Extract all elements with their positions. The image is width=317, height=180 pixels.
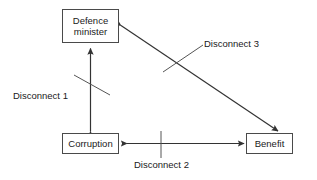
node-benefit[interactable]: Benefit: [246, 133, 293, 154]
edge-disconnect-1: [74, 49, 110, 132]
edge-disconnect-2: [127, 131, 244, 158]
node-corruption[interactable]: Corruption: [62, 133, 119, 154]
node-defence-minister-line2: minister: [74, 26, 107, 38]
label-disconnect-3: Disconnect 3: [204, 38, 259, 49]
node-benefit-label: Benefit: [255, 138, 285, 150]
disconnect-1-cross-slash: [74, 75, 110, 95]
label-disconnect-1: Disconnect 1: [13, 90, 68, 101]
disconnect-3-leader-slash: [163, 45, 203, 72]
node-corruption-label: Corruption: [68, 138, 112, 150]
node-defence-minister[interactable]: Defence minister: [62, 9, 119, 43]
diagram-canvas: Defence minister Corruption Benefit Disc…: [0, 0, 317, 180]
label-disconnect-2: Disconnect 2: [134, 159, 189, 170]
node-defence-minister-line1: Defence: [73, 15, 108, 27]
